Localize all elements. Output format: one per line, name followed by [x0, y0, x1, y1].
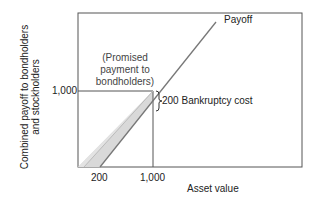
bankruptcy-cost-label: 200 Bankruptcy cost — [162, 95, 253, 106]
y-axis-label: Combined payoff to bondholders and stock… — [19, 17, 41, 177]
x-tick-200: 200 — [91, 172, 108, 183]
x-tick-1000: 1,000 — [140, 172, 165, 183]
promised-label-3: bondholders) — [94, 76, 156, 87]
payoff-label: Payoff — [224, 14, 252, 25]
x-axis-label: Asset value — [187, 183, 239, 194]
promised-label-1: (Promised — [100, 52, 150, 63]
y-axis-label-line1: Combined payoff to bondholders — [19, 17, 30, 177]
y-tick-1000: 1,000 — [52, 85, 77, 96]
promised-label-2: payment to — [96, 64, 154, 75]
y-axis-label-line2: and stockholders — [30, 17, 41, 177]
